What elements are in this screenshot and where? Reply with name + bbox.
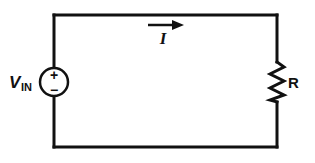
resistor-label: R — [288, 74, 299, 91]
source-label: V IN — [9, 73, 32, 93]
current-label: I — [159, 29, 168, 48]
circuit-diagram: + − V IN I R — [0, 0, 315, 163]
resistor: R — [270, 62, 299, 102]
resistor-zigzag-icon — [270, 62, 284, 102]
source-label-sub: IN — [21, 81, 32, 93]
minus-sign: − — [50, 82, 58, 98]
plus-sign: + — [50, 67, 58, 83]
voltage-source: + − — [40, 67, 68, 98]
current-indicator: I — [148, 20, 184, 48]
current-arrowhead-icon — [172, 20, 184, 30]
